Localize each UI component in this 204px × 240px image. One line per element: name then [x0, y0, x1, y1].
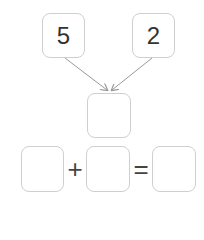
sum-box[interactable] [87, 93, 131, 138]
arrow-right [112, 58, 152, 90]
plus-sign: + [64, 156, 86, 182]
arrow-left [65, 58, 107, 90]
equation-first-box[interactable] [21, 146, 64, 192]
equals-sign: = [130, 156, 152, 182]
equation-result-box[interactable] [152, 146, 196, 192]
equation-second-box[interactable] [86, 146, 130, 192]
